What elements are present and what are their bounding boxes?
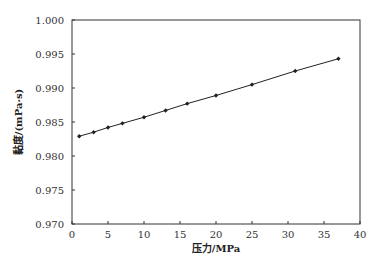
y-axis-ticks: 0.9700.9750.9800.9850.9900.9951.000 — [35, 15, 75, 230]
data-point-marker — [106, 125, 110, 129]
y-tick-label: 0.980 — [35, 151, 64, 162]
x-tick-label: 40 — [354, 229, 367, 240]
data-point-marker — [142, 115, 146, 119]
y-tick-label: 0.985 — [35, 117, 64, 128]
x-tick-label: 25 — [246, 229, 259, 240]
x-tick-label: 15 — [174, 229, 187, 240]
y-tick-label: 0.975 — [35, 185, 64, 196]
x-tick-label: 30 — [282, 229, 295, 240]
data-point-marker — [293, 69, 297, 73]
y-tick-label: 0.970 — [35, 219, 64, 230]
x-tick-label: 35 — [318, 229, 331, 240]
y-tick-label: 0.995 — [35, 49, 64, 60]
y-tick-label: 1.000 — [35, 15, 64, 26]
data-line — [79, 59, 338, 137]
y-axis-label: 黏度/(mPa·s) — [12, 89, 24, 156]
x-tick-label: 10 — [138, 229, 151, 240]
data-point-marker — [250, 82, 254, 86]
y-tick-label: 0.990 — [35, 83, 64, 94]
data-point-marker — [163, 108, 167, 112]
x-tick-label: 0 — [69, 229, 75, 240]
x-tick-label: 5 — [105, 229, 111, 240]
data-point-marker — [336, 57, 340, 61]
data-point-marker — [214, 93, 218, 97]
data-point-marker — [77, 134, 81, 138]
data-point-marker — [185, 101, 189, 105]
viscosity-pressure-chart: 0510152025303540 0.9700.9750.9800.9850.9… — [0, 0, 383, 265]
data-point-marker — [120, 121, 124, 125]
x-tick-label: 20 — [210, 229, 223, 240]
x-axis-label: 压力/MPa — [192, 242, 241, 254]
data-point-marker — [91, 130, 95, 134]
plot-frame — [72, 20, 360, 224]
